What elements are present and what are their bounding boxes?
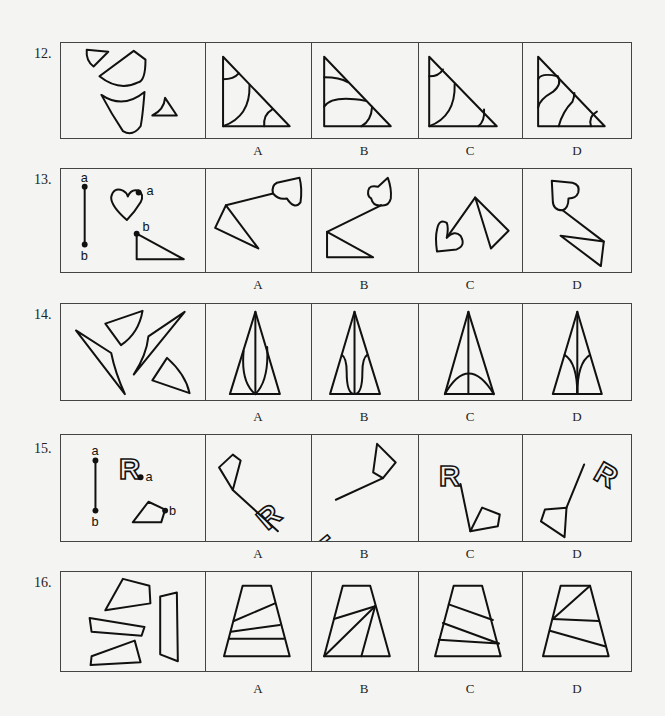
q14-option-b[interactable] bbox=[311, 304, 418, 400]
q12-option-b[interactable] bbox=[311, 43, 418, 138]
q13-option-c-figure bbox=[419, 169, 523, 272]
question-number-14: 14. bbox=[34, 307, 52, 323]
q13-option-a-figure bbox=[206, 169, 311, 272]
q14-option-b-figure bbox=[312, 304, 418, 400]
svg-text:a: a bbox=[146, 183, 154, 198]
svg-text:b: b bbox=[81, 248, 88, 263]
q16-option-c[interactable] bbox=[418, 572, 523, 671]
q12-option-a-figure bbox=[206, 43, 311, 138]
question-number-16: 16. bbox=[34, 575, 52, 591]
q13-option-b[interactable] bbox=[311, 169, 418, 272]
q13-option-d-figure bbox=[523, 169, 631, 272]
q14-label-c: C bbox=[455, 409, 485, 425]
q13-label-c: C bbox=[455, 277, 485, 293]
q15-option-a[interactable]: R bbox=[205, 435, 311, 541]
question-13-row: a b a b bbox=[60, 168, 632, 273]
q13-option-c[interactable] bbox=[418, 169, 523, 272]
q14-option-d[interactable] bbox=[522, 304, 631, 400]
svg-text:R: R bbox=[250, 497, 288, 536]
q16-label-b: B bbox=[349, 681, 379, 697]
q15-label-d: D bbox=[562, 546, 592, 562]
q12-label-a: A bbox=[243, 143, 273, 159]
q16-pieces-figure bbox=[61, 572, 205, 671]
question-number-12: 12. bbox=[34, 46, 52, 62]
q15-option-c-figure: R bbox=[419, 435, 523, 541]
q16-option-a[interactable] bbox=[205, 572, 311, 671]
svg-text:R: R bbox=[439, 459, 460, 492]
q16-pieces bbox=[61, 572, 205, 671]
svg-text:b: b bbox=[143, 219, 150, 234]
q13-option-d[interactable] bbox=[522, 169, 631, 272]
svg-text:b: b bbox=[169, 503, 176, 518]
q16-option-b-figure bbox=[312, 572, 418, 671]
question-14-row bbox=[60, 303, 632, 401]
question-12-row bbox=[60, 42, 632, 139]
q15-option-b-figure: R bbox=[312, 435, 418, 541]
svg-text:R: R bbox=[312, 529, 344, 541]
q14-pieces-figure bbox=[61, 304, 205, 400]
q14-option-c[interactable] bbox=[418, 304, 523, 400]
q16-option-d[interactable] bbox=[522, 572, 631, 671]
q14-option-a-figure bbox=[206, 304, 311, 400]
q12-label-b: B bbox=[349, 143, 379, 159]
q15-label-c: C bbox=[455, 546, 485, 562]
q13-label-d: D bbox=[562, 277, 592, 293]
q14-option-d-figure bbox=[523, 304, 631, 400]
q12-label-c: C bbox=[455, 143, 485, 159]
q14-pieces bbox=[61, 304, 205, 400]
q15-option-d[interactable]: R bbox=[522, 435, 631, 541]
q15-pieces: a b R a b bbox=[61, 435, 205, 541]
q12-label-d: D bbox=[562, 143, 592, 159]
q14-option-a[interactable] bbox=[205, 304, 311, 400]
q12-option-c-figure bbox=[419, 43, 523, 138]
q12-option-c[interactable] bbox=[418, 43, 523, 138]
q15-option-a-figure: R bbox=[206, 435, 311, 541]
q15-label-a: A bbox=[243, 546, 273, 562]
q16-label-a: A bbox=[243, 681, 273, 697]
q14-option-c-figure bbox=[419, 304, 523, 400]
question-number-15: 15. bbox=[34, 441, 52, 457]
svg-text:R: R bbox=[589, 455, 624, 494]
svg-text:R: R bbox=[119, 452, 140, 485]
q14-label-d: D bbox=[562, 409, 592, 425]
q15-option-d-figure: R bbox=[523, 435, 631, 541]
q16-option-a-figure bbox=[206, 572, 311, 671]
question-number-13: 13. bbox=[34, 172, 52, 188]
q12-option-d-figure bbox=[523, 43, 631, 138]
q12-option-b-figure bbox=[312, 43, 418, 138]
q12-pieces-figure bbox=[61, 43, 205, 138]
q13-pieces: a b a b bbox=[61, 169, 205, 272]
q16-option-b[interactable] bbox=[311, 572, 418, 671]
q15-option-b[interactable]: R bbox=[311, 435, 418, 541]
q13-pieces-figure: a b a b bbox=[61, 169, 205, 272]
q16-label-d: D bbox=[562, 681, 592, 697]
q14-label-a: A bbox=[243, 409, 273, 425]
q13-label-b: B bbox=[349, 277, 379, 293]
q15-option-c[interactable]: R bbox=[418, 435, 523, 541]
q13-option-b-figure bbox=[312, 169, 418, 272]
svg-text:a: a bbox=[92, 443, 100, 458]
question-16-row bbox=[60, 571, 632, 672]
q13-option-a[interactable] bbox=[205, 169, 311, 272]
q16-option-d-figure bbox=[523, 572, 631, 671]
svg-text:a: a bbox=[146, 469, 154, 484]
q14-label-b: B bbox=[349, 409, 379, 425]
q16-label-c: C bbox=[455, 681, 485, 697]
svg-text:a: a bbox=[81, 170, 89, 185]
q15-pieces-figure: a b R a b bbox=[61, 435, 205, 541]
q15-label-b: B bbox=[349, 546, 379, 562]
q13-label-a: A bbox=[243, 277, 273, 293]
question-15-row: a b R a b R R R bbox=[60, 434, 632, 542]
q12-option-d[interactable] bbox=[522, 43, 631, 138]
q12-option-a[interactable] bbox=[205, 43, 311, 138]
q16-option-c-figure bbox=[419, 572, 523, 671]
q12-pieces bbox=[61, 43, 205, 138]
svg-text:b: b bbox=[92, 514, 99, 529]
